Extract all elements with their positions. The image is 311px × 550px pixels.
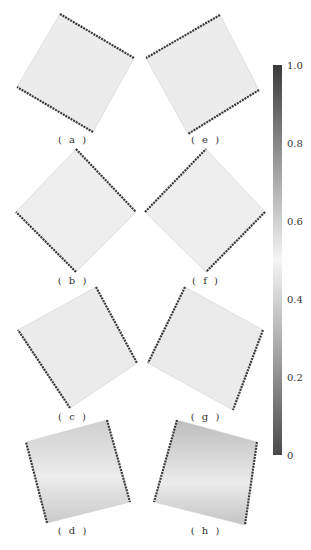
colorbar-tick-label: 0.4 xyxy=(287,294,303,305)
panel-h-shape xyxy=(154,420,257,525)
panel-b xyxy=(16,149,136,272)
colorbar-tick-label: 0.8 xyxy=(287,138,303,149)
panel-d-shape xyxy=(26,420,130,523)
panel-label-d: ( d ) xyxy=(58,525,89,536)
panel-b-shape xyxy=(16,149,136,272)
figure: ( a )( b )( c )( d )( e )( f )( g )( h )… xyxy=(0,0,311,550)
colorbar-tick-label: 0.6 xyxy=(287,216,303,227)
panels-canvas xyxy=(0,0,311,550)
panel-label-b: ( b ) xyxy=(58,275,89,286)
panel-label-h: ( h ) xyxy=(191,525,222,536)
panel-label-c: ( c ) xyxy=(58,411,88,422)
panel-h xyxy=(154,420,257,525)
panel-g xyxy=(148,287,263,410)
panel-f-shape xyxy=(145,149,265,272)
panel-label-e: ( e ) xyxy=(191,134,221,145)
panel-a-shape xyxy=(17,14,134,132)
panel-label-g: ( g ) xyxy=(191,411,222,422)
panel-e-shape xyxy=(146,15,259,134)
panel-f xyxy=(145,149,265,272)
colorbar-tick-label: 0 xyxy=(287,450,293,461)
panel-c xyxy=(18,287,137,408)
panel-g-shape xyxy=(148,287,263,410)
panel-e xyxy=(146,15,259,134)
colorbar-tick-label: 0.2 xyxy=(287,372,303,383)
panel-label-f: ( f ) xyxy=(192,275,220,286)
colorbar-tick-label: 1.0 xyxy=(287,60,303,71)
panel-c-shape xyxy=(18,287,137,408)
colorbar xyxy=(273,65,282,455)
panel-a xyxy=(17,14,134,132)
panel-label-a: ( a ) xyxy=(58,134,88,145)
panel-d xyxy=(26,420,130,523)
